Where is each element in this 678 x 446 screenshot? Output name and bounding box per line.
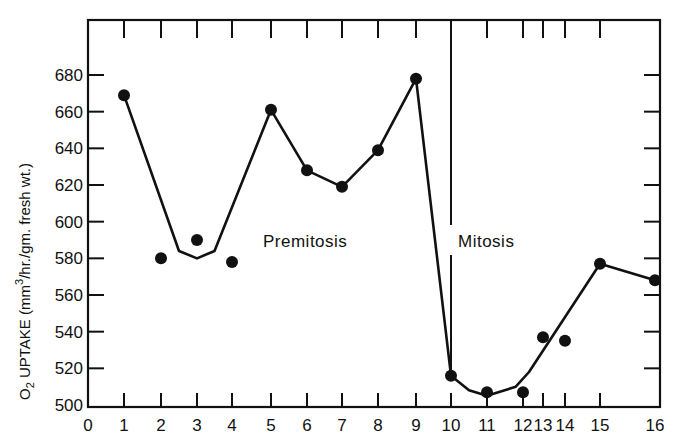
x-tick-label: 3 <box>192 416 201 435</box>
data-point <box>649 274 661 286</box>
x-tick-label: 2 <box>156 416 165 435</box>
x-tick-label: 5 <box>266 416 275 435</box>
plot-frame <box>88 20 660 407</box>
y-tick-label: 600 <box>55 213 83 232</box>
x-tick-label: 9 <box>411 416 420 435</box>
curve-path <box>124 79 655 396</box>
y-tick-label: 660 <box>55 103 83 122</box>
x-tick-label: 12 <box>514 416 533 435</box>
data-point <box>372 144 384 156</box>
data-points <box>118 73 661 399</box>
x-tick-label: 11 <box>478 416 496 435</box>
y-tick-label: 640 <box>55 139 83 158</box>
y-tick-label: 560 <box>55 286 83 305</box>
x-tick-label: 8 <box>373 416 382 435</box>
y-tick-labels: 500520540560580600620640660680 <box>55 66 83 415</box>
y-tick-label: 580 <box>55 249 83 268</box>
data-point <box>301 164 313 176</box>
premitosis-label: Premitosis <box>263 232 347 251</box>
data-point <box>191 234 203 246</box>
x-tick-label: 0 <box>83 416 92 435</box>
data-point <box>537 331 549 343</box>
o2-uptake-chart: 012345678910111213141516 500520540560580… <box>0 0 678 446</box>
x-tick-labels: 012345678910111213141516 <box>83 416 664 435</box>
x-tick-label: 15 <box>591 416 610 435</box>
y-axis-label: O2 UPTAKE (mm3/hr./gm. fresh wt.) <box>13 163 36 400</box>
axis-ticks <box>88 20 660 407</box>
x-tick-label: 7 <box>337 416 346 435</box>
mitosis-label: Mitosis <box>458 232 514 251</box>
data-point <box>226 256 238 268</box>
y-tick-label: 520 <box>55 359 83 378</box>
y-tick-label: 540 <box>55 323 83 342</box>
x-tick-label: 1 <box>119 416 128 435</box>
data-point <box>336 181 348 193</box>
data-point <box>265 104 277 116</box>
fitted-curve <box>124 79 655 396</box>
data-point <box>481 386 493 398</box>
x-tick-label: 16 <box>646 416 665 435</box>
data-point <box>410 73 422 85</box>
data-point <box>445 370 457 382</box>
y-tick-label: 680 <box>55 66 83 85</box>
y-tick-label: 500 <box>55 396 83 415</box>
x-tick-label: 6 <box>302 416 311 435</box>
x-tick-label: 14 <box>556 416 575 435</box>
x-tick-label: 10 <box>442 416 461 435</box>
x-tick-label: 4 <box>227 416 236 435</box>
plot-border <box>88 20 660 407</box>
data-point <box>118 89 130 101</box>
data-point <box>559 335 571 347</box>
data-point <box>594 258 606 270</box>
phase-annotations: Premitosis Mitosis <box>263 232 514 251</box>
data-point <box>517 386 529 398</box>
x-tick-label: 13 <box>534 416 553 435</box>
y-tick-label: 620 <box>55 176 83 195</box>
data-point <box>155 252 167 264</box>
